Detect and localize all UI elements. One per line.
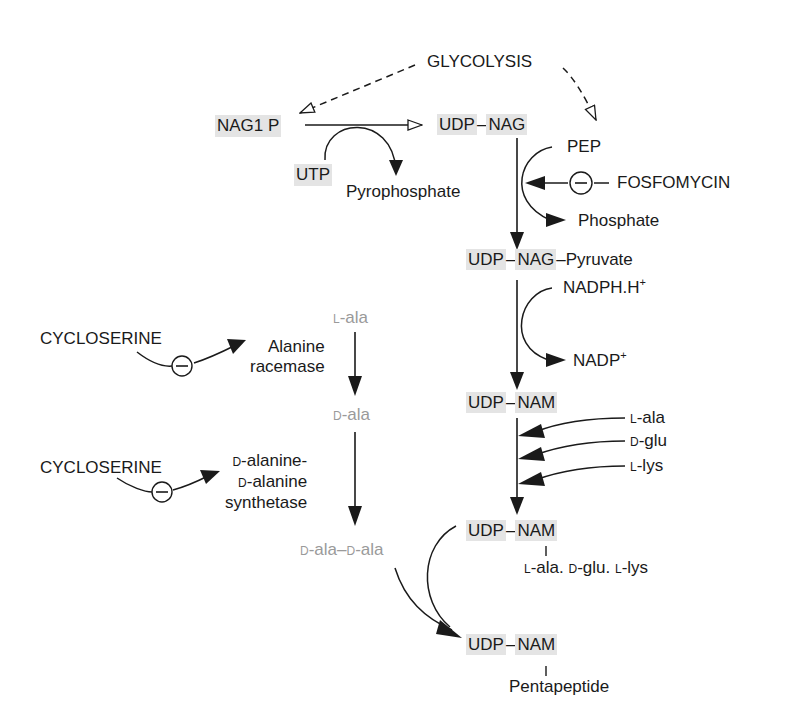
- d-glu-label: D-glu: [630, 431, 667, 452]
- aa-name: -ala–: [309, 540, 347, 559]
- bond-dash: –: [506, 250, 515, 269]
- udp-part: UDP: [466, 634, 506, 655]
- glycolysis-to-nag1p-arrow: [300, 65, 415, 113]
- stereo-prefix: D: [238, 476, 247, 490]
- aa-name: -ala.: [531, 558, 569, 577]
- enzyme-line-1: D-alanine-: [225, 451, 307, 472]
- nam-part: NAM: [515, 634, 557, 655]
- left-l-ala-label: L-ala: [333, 308, 368, 329]
- enzyme-text: -alanine: [247, 472, 308, 491]
- enzyme-line-2: D-alanine: [225, 472, 307, 493]
- enzyme-line-1: Alanine: [250, 337, 325, 357]
- stereo-prefix: D: [232, 455, 241, 469]
- cycloserine-label-2: CYCLOSERINE: [40, 458, 162, 478]
- glycolysis-to-pep-arrow: [563, 68, 596, 120]
- stereo-prefix: L: [630, 460, 637, 474]
- stereo-prefix: L: [524, 562, 531, 576]
- bond-dash: –: [477, 115, 486, 134]
- stereo-prefix: D: [300, 544, 309, 558]
- glycolysis-label: GLYCOLYSIS: [427, 52, 532, 72]
- bond-dash: –: [506, 635, 515, 654]
- enzyme-text: -alanine-: [241, 451, 307, 470]
- cycloserine-label-1: CYCLOSERINE: [40, 329, 162, 349]
- nadp-charge: +: [620, 349, 626, 361]
- nam-part: NAM: [515, 520, 557, 541]
- aa-name: -ala: [355, 540, 383, 559]
- stereo-prefix: D: [333, 409, 342, 423]
- udp-nag-node: UDP–NAG: [437, 115, 527, 135]
- udp-nag-pyruvate-node: UDP–NAG–Pyruvate: [466, 250, 633, 270]
- aa-name: -glu: [639, 431, 667, 450]
- phosphate-label: Phosphate: [578, 211, 659, 231]
- aa-name: -ala: [342, 405, 370, 424]
- udp-part: UDP: [466, 392, 506, 413]
- stereo-prefix: L: [615, 562, 622, 576]
- aa-name: -ala: [340, 308, 368, 327]
- l-ala-label: L-ala: [630, 408, 665, 429]
- ddl-enzyme-label: D-alanine- D-alanine synthetase: [225, 451, 307, 513]
- pyruvate-part: –Pyruvate: [556, 250, 633, 269]
- stereo-prefix: D: [346, 544, 355, 558]
- pyrophosphate-label: Pyrophosphate: [346, 182, 460, 202]
- bond-dash: –: [506, 521, 515, 540]
- udp-part: UDP: [466, 520, 506, 541]
- pep-label: PEP: [567, 137, 601, 157]
- nadph-text: NADPH.H: [563, 278, 640, 297]
- nadph-label: NADPH.H+: [563, 278, 646, 298]
- nadp-label: NADP+: [573, 351, 627, 371]
- alanine-racemase-label: Alanine racemase: [250, 337, 325, 377]
- nag-part: NAG: [486, 114, 527, 135]
- aa-name: -lys: [637, 456, 663, 475]
- d-ala-d-ala-label: D-ala–D-ala: [300, 540, 384, 561]
- enzyme-line-2: racemase: [250, 357, 325, 377]
- nadph-charge: +: [640, 276, 646, 288]
- stereo-prefix: D: [630, 435, 639, 449]
- aa-name: -lys: [622, 558, 648, 577]
- pathway-arrows: [0, 0, 786, 706]
- aa-name: -ala: [637, 408, 665, 427]
- udp-nam-tripeptide-node: UDP–NAM: [466, 521, 557, 541]
- left-d-ala-label: D-ala: [333, 405, 370, 426]
- stereo-prefix: L: [333, 312, 340, 326]
- tripeptide-label: L-ala. D-glu. L-lys: [524, 558, 648, 579]
- udp-part: UDP: [437, 114, 477, 135]
- nadp-text: NADP: [573, 351, 620, 370]
- bond-dash: –: [506, 393, 515, 412]
- pentapeptide-label: Pentapeptide: [509, 677, 609, 697]
- utp-node: UTP: [294, 164, 332, 186]
- stereo-prefix: D: [568, 562, 577, 576]
- fosfomycin-label: FOSFOMYCIN: [617, 173, 730, 193]
- l-lys-label: L-lys: [630, 456, 663, 477]
- nag1p-node: NAG1 P: [215, 115, 281, 137]
- udp-nam-pentapeptide-node: UDP–NAM: [466, 635, 557, 655]
- udp-part: UDP: [466, 249, 506, 270]
- stereo-prefix: L: [630, 412, 637, 426]
- nag-part: NAG: [515, 249, 556, 270]
- enzyme-line-3: synthetase: [225, 493, 307, 513]
- aa-name: -glu.: [577, 558, 615, 577]
- nam-part: NAM: [515, 392, 557, 413]
- udp-nam-node: UDP–NAM: [466, 393, 557, 413]
